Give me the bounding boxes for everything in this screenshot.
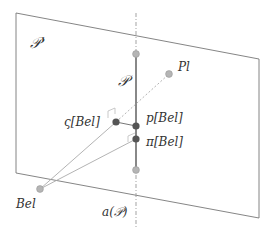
diagram-canvas: 𝒫' 𝒫 Pl ς[Bel] p[Bel] π[Bel] Bel a(𝒫) <box>0 0 272 236</box>
label-affine-hull: a(𝒫) <box>102 206 128 218</box>
lower-endpoint <box>133 167 140 174</box>
label-pi-bel: π[Bel] <box>146 136 183 148</box>
label-outer-plane: 𝒫' <box>30 36 45 51</box>
outer-plane <box>16 13 259 218</box>
label-bel: Bel <box>16 198 36 210</box>
point-zeta-bel <box>112 118 119 125</box>
label-p-bel: p[Bel] <box>146 112 183 124</box>
label-inner-set: 𝒫 <box>118 74 129 89</box>
point-pl <box>166 71 173 78</box>
label-pl: Pl <box>178 61 190 73</box>
label-zeta-bel: ς[Bel] <box>64 116 100 128</box>
point-bel <box>37 186 44 193</box>
point-p-bel <box>132 122 139 129</box>
point-pi-bel <box>132 135 139 142</box>
right-angle-mark-zeta <box>108 108 115 118</box>
upper-endpoint <box>133 51 140 58</box>
